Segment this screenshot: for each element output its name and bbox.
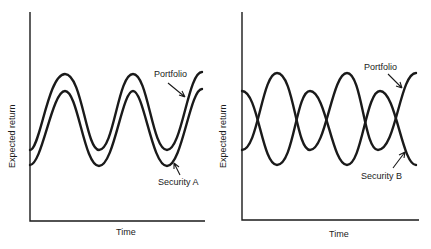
left-security-label: Security A <box>158 177 199 187</box>
right-y-axis-label: Expected return <box>218 104 228 168</box>
left-portfolio-arrow-icon <box>168 83 185 97</box>
right-portfolio-arrow-icon <box>388 74 402 88</box>
right-portfolio-line <box>242 73 416 150</box>
left-portfolio-label: Portfolio <box>154 69 187 79</box>
right-portfolio-label: Portfolio <box>364 62 397 72</box>
chart-canvas: Expected return Time Portfolio Security … <box>0 0 431 249</box>
left-security-a-line <box>30 89 202 166</box>
right-chart: Expected return Time Portfolio Security … <box>218 12 419 239</box>
left-security-arrow-icon <box>174 163 180 175</box>
right-security-b-line <box>242 91 416 165</box>
left-y-axis-label: Expected return <box>7 104 17 168</box>
right-x-axis-label: Time <box>329 229 349 239</box>
left-x-axis-label: Time <box>116 227 136 237</box>
right-axes <box>242 12 419 220</box>
left-portfolio-line <box>30 72 202 150</box>
left-chart: Expected return Time Portfolio Security … <box>7 12 205 237</box>
left-axes <box>30 12 205 221</box>
right-security-arrow-icon <box>393 152 405 168</box>
right-security-label: Security B <box>361 171 402 181</box>
